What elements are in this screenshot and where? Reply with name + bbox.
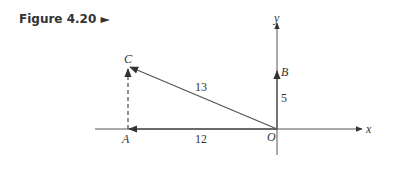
vector-oc xyxy=(130,67,277,129)
origin-label: O xyxy=(267,130,276,144)
vector-diagram: y x O A B C 13 12 5 xyxy=(0,0,401,180)
point-a-label: A xyxy=(121,132,130,146)
x-axis-label: x xyxy=(365,122,372,136)
length-oc-label: 13 xyxy=(195,80,207,94)
point-b-label: B xyxy=(281,65,289,79)
length-oa-label: 12 xyxy=(195,132,207,146)
y-axis-label: y xyxy=(273,11,280,25)
length-ob-label: 5 xyxy=(281,91,287,105)
point-c-label: C xyxy=(124,52,133,66)
